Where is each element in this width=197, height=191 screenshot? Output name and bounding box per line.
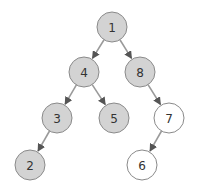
tree-node-1: 1 [97, 12, 127, 42]
edge-1-4 [92, 40, 104, 59]
edge-3-2 [38, 131, 50, 151]
tree-node-8: 8 [125, 57, 155, 87]
edge-1-8 [120, 40, 132, 59]
edge-4-3 [65, 85, 76, 104]
edges-group [38, 40, 162, 151]
tree-node-7: 7 [154, 103, 184, 133]
edge-8-7 [148, 85, 160, 105]
tree-node-6: 6 [127, 150, 157, 180]
tree-node-3: 3 [42, 103, 72, 133]
node-label: 3 [53, 112, 61, 126]
edge-7-6 [150, 131, 162, 151]
node-label: 8 [136, 66, 144, 80]
node-label: 6 [138, 159, 146, 173]
node-label: 7 [165, 112, 173, 126]
node-label: 5 [110, 112, 118, 126]
tree-node-2: 2 [15, 150, 45, 180]
node-label: 2 [26, 159, 34, 173]
edge-4-5 [92, 85, 105, 105]
tree-diagram: 14835726 [0, 0, 197, 191]
node-label: 1 [108, 21, 116, 35]
node-label: 4 [80, 66, 88, 80]
tree-node-4: 4 [69, 57, 99, 87]
tree-node-5: 5 [99, 103, 129, 133]
